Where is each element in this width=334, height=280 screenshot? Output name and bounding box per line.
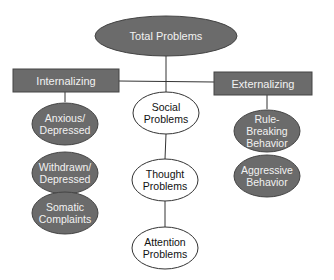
rule-breaking-label-line2: Behavior	[234, 137, 300, 149]
rule-breaking-behavior-node: Rule-Breaking Behavior	[234, 110, 300, 152]
connector-horizontal-bar	[119, 81, 214, 82]
externalizing-node: Externalizing	[214, 72, 312, 95]
attention-problems-label-line1: Attention	[143, 236, 187, 248]
aggressive-behavior-label-line2: Behavior	[241, 176, 293, 188]
internalizing-node: Internalizing	[13, 69, 119, 92]
rule-breaking-label-line1: Rule-Breaking	[234, 113, 300, 137]
attention-problems-label-line2: Problems	[143, 248, 187, 260]
thought-problems-node: Thought Problems	[132, 159, 198, 201]
connector-social-to-thought	[165, 134, 166, 159]
attention-problems-node: Attention Problems	[132, 227, 198, 269]
total-problems-label: Total Problems	[130, 30, 203, 42]
anxious-depressed-label-line1: Anxious/	[40, 112, 91, 124]
social-problems-label-line2: Problems	[144, 113, 188, 125]
withdrawn-depressed-label-line2: Depressed	[39, 173, 92, 185]
aggressive-behavior-label-line1: Aggressive	[241, 164, 293, 176]
somatic-complaints-label-line2: Complaints	[39, 213, 92, 225]
social-problems-node: Social Problems	[133, 92, 199, 134]
somatic-complaints-node: Somatic Complaints	[32, 192, 98, 234]
externalizing-label: Externalizing	[232, 78, 295, 90]
social-problems-label-line1: Social	[144, 101, 188, 113]
aggressive-behavior-node: Aggressive Behavior	[234, 155, 300, 197]
anxious-depressed-label-line2: Depressed	[40, 124, 91, 136]
thought-problems-label-line2: Problems	[143, 180, 187, 192]
withdrawn-depressed-label-line1: Withdrawn/	[39, 161, 92, 173]
withdrawn-depressed-node: Withdrawn/ Depressed	[32, 152, 98, 194]
thought-problems-label-line1: Thought	[143, 168, 187, 180]
anxious-depressed-node: Anxious/ Depressed	[32, 103, 98, 145]
total-problems-node: Total Problems	[95, 16, 237, 56]
internalizing-label: Internalizing	[36, 75, 95, 87]
somatic-complaints-label-line1: Somatic	[39, 201, 92, 213]
